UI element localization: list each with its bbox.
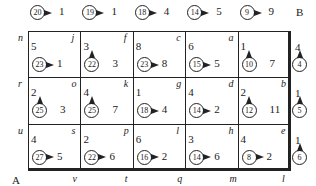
clue-circle: 27 xyxy=(32,150,47,165)
right-clue-circle: 6 xyxy=(292,150,307,165)
clue-value: 7 xyxy=(270,57,276,69)
grid-thick-right-edge xyxy=(288,31,291,171)
cell-number: 4 xyxy=(241,133,247,145)
clue-value: 5 xyxy=(214,57,220,69)
clue-circle: 10 xyxy=(242,57,257,72)
grid-line-vertical xyxy=(238,31,239,170)
right-clue-circle: 4 xyxy=(292,57,307,72)
grid-thick-bottom-edge xyxy=(28,168,291,171)
clue-value: 3 xyxy=(60,103,66,115)
clue-circle: 8 xyxy=(242,150,257,165)
clue-value: 4 xyxy=(162,103,168,115)
arrow-right-icon xyxy=(201,10,209,16)
clue-value: 2 xyxy=(214,103,220,115)
clue-value: 1 xyxy=(111,5,117,17)
clue-value: 7 xyxy=(112,103,118,115)
cell-corner-label: d xyxy=(229,78,234,89)
clue-circle: 16 xyxy=(137,150,152,165)
cell-number: 4 xyxy=(31,133,37,145)
cell-corner-label: f xyxy=(124,32,127,43)
cell-number: 2 xyxy=(83,133,89,145)
row-label: u xyxy=(18,125,23,136)
cell-number: 6 xyxy=(136,133,142,145)
arrow-up-icon xyxy=(246,50,252,58)
clue-value: 8 xyxy=(162,57,168,69)
arrow-up-icon xyxy=(297,96,303,104)
grid-line-vertical xyxy=(185,31,186,170)
cell-number: 4 xyxy=(188,86,194,98)
arrow-right-icon xyxy=(96,10,104,16)
arrow-up-icon xyxy=(297,50,303,58)
cell-number: 1 xyxy=(136,86,142,98)
arrow-up-icon xyxy=(89,96,95,104)
clue-value: 6 xyxy=(214,150,220,162)
arrow-right-icon xyxy=(254,10,262,16)
clue-value: 5 xyxy=(216,5,222,17)
cell-corner-label: a xyxy=(229,32,234,43)
grid-line-horizontal xyxy=(28,77,290,78)
arrow-right-icon xyxy=(203,108,211,114)
clue-value: 2 xyxy=(267,150,273,162)
clue-value: 2 xyxy=(162,150,168,162)
clue-value: 4 xyxy=(164,5,170,17)
row-label: r xyxy=(18,78,22,89)
cell-corner-label: e xyxy=(281,125,285,136)
column-label: v xyxy=(72,173,76,184)
arrow-right-icon xyxy=(203,62,211,68)
arrow-right-icon xyxy=(151,62,159,68)
clue-value: 5 xyxy=(57,150,63,162)
column-label: q xyxy=(177,173,182,184)
arrow-right-icon xyxy=(44,10,52,16)
grid-line-vertical xyxy=(133,31,134,170)
arrow-right-icon xyxy=(98,154,106,160)
column-label: t xyxy=(125,173,128,184)
column-label: l xyxy=(282,173,285,184)
cell-corner-label: k xyxy=(124,78,128,89)
corner-label-A: A xyxy=(12,174,20,186)
grid-line-vertical xyxy=(80,31,81,170)
column-label: m xyxy=(230,173,237,184)
cell-corner-label: h xyxy=(229,125,234,136)
cell-corner-label: o xyxy=(71,78,76,89)
clue-circle: 19 xyxy=(82,5,97,20)
row-label: n xyxy=(18,32,23,43)
clue-circle: 14 xyxy=(189,150,204,165)
cell-corner-label: c xyxy=(176,32,180,43)
clue-value: 11 xyxy=(270,103,281,115)
cell-number: 5 xyxy=(31,40,37,52)
cell-corner-label: b xyxy=(281,78,286,89)
arrow-right-icon xyxy=(46,154,54,160)
clue-value: 1 xyxy=(57,57,63,69)
clue-value: 6 xyxy=(109,150,115,162)
clue-circle: 20 xyxy=(30,5,45,20)
cell-corner-label: j xyxy=(71,32,74,43)
clue-circle: 23 xyxy=(32,57,47,72)
cell-corner-label: l xyxy=(176,125,179,136)
grid-line-horizontal xyxy=(28,124,290,125)
cell-number: 6 xyxy=(188,40,194,52)
corner-label-B: B xyxy=(296,6,303,18)
clue-value: 9 xyxy=(269,5,275,17)
right-clue-circle: 5 xyxy=(292,103,307,118)
clue-value: 1 xyxy=(59,5,65,17)
clue-circle: 23 xyxy=(137,57,152,72)
arrow-up-icon xyxy=(297,143,303,151)
cell-corner-label: s xyxy=(71,125,75,136)
arrow-right-icon xyxy=(151,108,159,114)
cell-number: 3 xyxy=(188,133,194,145)
cell-corner-label: g xyxy=(176,78,181,89)
arrow-right-icon xyxy=(151,154,159,160)
clue-circle: 18 xyxy=(135,5,150,20)
clue-circle: 9 xyxy=(240,5,255,20)
arrow-right-icon xyxy=(203,154,211,160)
arrow-up-icon xyxy=(246,96,252,104)
cell-corner-label: p xyxy=(124,125,129,136)
clue-circle: 14 xyxy=(187,5,202,20)
clue-circle: 12 xyxy=(242,103,257,118)
arrow-up-icon xyxy=(89,50,95,58)
clue-value: 3 xyxy=(112,57,118,69)
cell-number: 8 xyxy=(136,40,142,52)
arrow-right-icon xyxy=(46,62,54,68)
arrow-up-icon xyxy=(37,96,43,104)
arrow-right-icon xyxy=(256,154,264,160)
